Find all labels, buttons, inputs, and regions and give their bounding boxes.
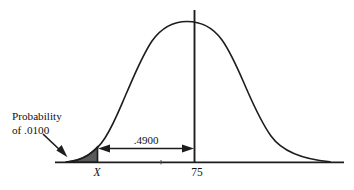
distribution-diagram: Probability of .0100 .4900 X 75: [0, 0, 354, 190]
distribution-figure: Probability of .0100 .4900 X 75: [0, 0, 354, 190]
shaded-tail-area: [66, 147, 98, 162]
annotation-pointer-arrowhead: [56, 145, 67, 157]
normal-curve: [66, 22, 330, 163]
measure-label: .4900: [134, 134, 159, 146]
annotation-line-1: Probability: [12, 110, 62, 122]
annotation-line-2: of .0100: [12, 124, 50, 136]
measure-arrowhead-right: [182, 144, 194, 152]
axis-label-mean: 75: [191, 166, 203, 178]
axis-label-threshold: X: [92, 166, 101, 178]
